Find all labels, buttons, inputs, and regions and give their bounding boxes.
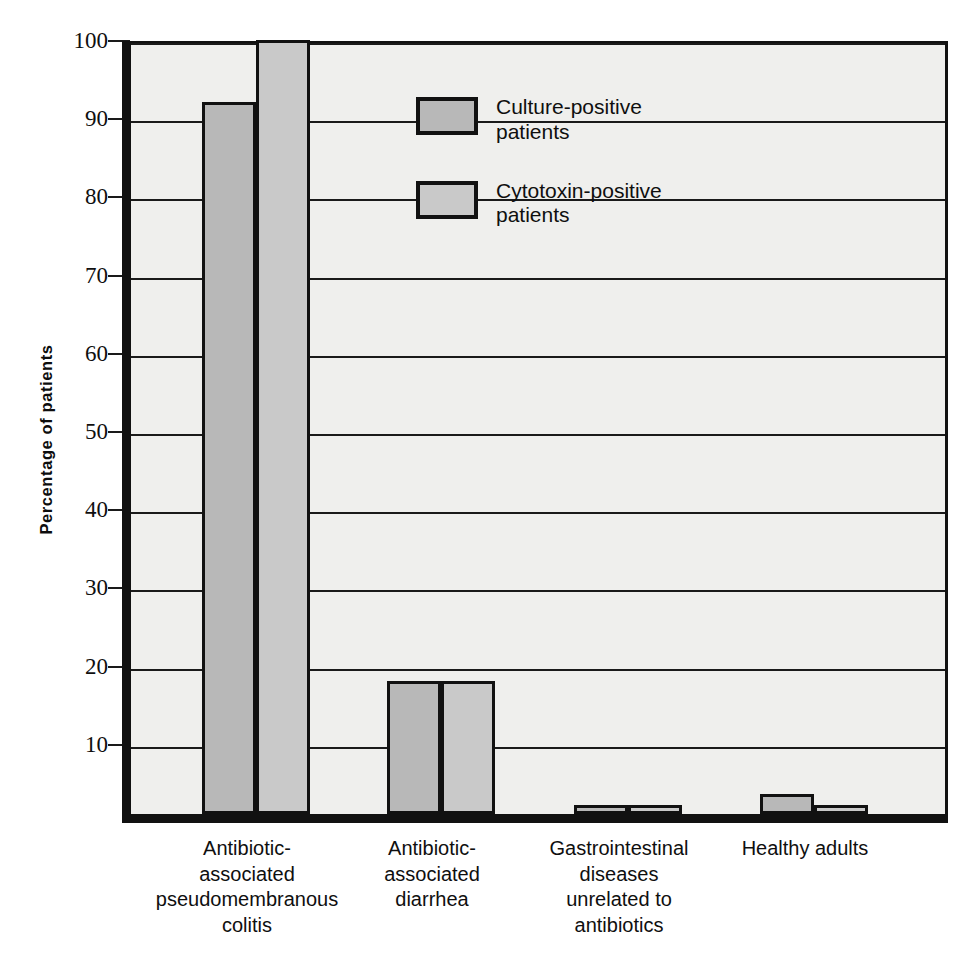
y-tick-label-10: 10 [48,732,108,758]
x-axis-label-line: colitis [97,913,397,939]
gridline-100 [131,43,945,45]
culture-positive-swatch-icon [416,97,478,135]
bar-cytotoxin-positive-group-2 [441,681,495,814]
legend-label-culture-positive: Culture-positive patients [496,95,642,145]
y-tick-label-80: 80 [48,184,108,210]
legend-label-line1: Cytotoxin-positive [496,179,662,202]
x-axis-label-line: Healthy adults [685,836,925,862]
y-tick-label-90: 90 [48,106,108,132]
y-tick-label-60: 60 [48,341,108,367]
bar-chart-figure: Percentage of patients 10203040506070809… [0,0,976,954]
legend-item-cytotoxin-positive: Cytotoxin-positive patients [416,179,756,229]
y-axis-tick-labels: 102030405060708090100 [48,41,108,823]
cytotoxin-positive-swatch-icon [416,181,478,219]
legend-item-culture-positive: Culture-positive patients [416,95,756,145]
chart-legend: Culture-positive patients Cytotoxin-posi… [416,95,756,262]
bar-culture-positive-group-2 [387,681,441,814]
bar-cytotoxin-positive-group-3 [628,805,682,814]
x-axis-category-labels: Antibiotic-associatedpseudomembranouscol… [122,836,948,954]
bar-culture-positive-group-1 [202,102,256,814]
bar-cytotoxin-positive-group-1 [256,40,310,814]
bar-culture-positive-group-3 [574,805,628,814]
bar-cytotoxin-positive-group-4 [814,805,868,814]
y-tick-label-70: 70 [48,263,108,289]
legend-label-cytotoxin-positive: Cytotoxin-positive patients [496,179,662,229]
bar-culture-positive-group-4 [760,794,814,814]
x-axis-label-line: antibiotics [504,913,734,939]
legend-label-line2: patients [496,120,570,143]
legend-label-line2: patients [496,203,570,226]
y-tick-label-30: 30 [48,575,108,601]
y-tick-label-100: 100 [48,28,108,54]
x-axis-label-line: unrelated to [504,887,734,913]
y-tick-label-50: 50 [48,419,108,445]
x-axis-label-group-4: Healthy adults [685,836,925,862]
y-tick-label-20: 20 [48,654,108,680]
y-tick-label-40: 40 [48,497,108,523]
legend-label-line1: Culture-positive [496,95,642,118]
x-axis-label-line: diseases [504,862,734,888]
